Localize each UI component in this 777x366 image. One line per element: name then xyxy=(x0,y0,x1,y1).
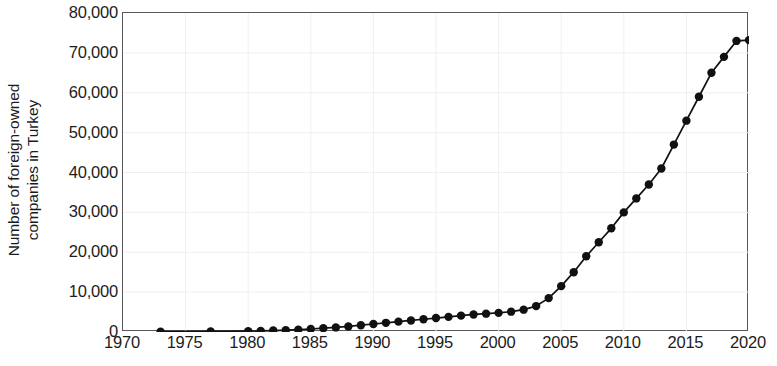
y-axis-label-line1: Number of foreign-owned xyxy=(4,84,23,257)
data-point-marker xyxy=(369,320,377,328)
plot-area xyxy=(122,12,748,331)
data-point-marker xyxy=(469,310,477,318)
data-point-marker xyxy=(570,268,578,276)
data-point-marker xyxy=(244,327,252,332)
data-point-marker xyxy=(206,327,214,332)
data-point-marker xyxy=(257,327,265,332)
x-tick-label: 2000 xyxy=(480,333,516,352)
data-point-marker xyxy=(720,53,728,61)
data-point-marker xyxy=(357,321,365,329)
data-point-marker xyxy=(732,37,740,45)
x-tick-label: 1980 xyxy=(229,333,265,352)
data-point-marker xyxy=(632,194,640,202)
data-point-marker xyxy=(532,302,540,310)
data-point-marker xyxy=(344,322,352,330)
x-tick-label: 2010 xyxy=(605,333,641,352)
x-tick-label: 2020 xyxy=(730,333,766,352)
data-point-marker xyxy=(582,252,590,260)
x-tick-label: 1970 xyxy=(104,333,140,352)
chart-canvas xyxy=(123,13,749,332)
data-point-marker xyxy=(494,309,502,317)
y-tick-label: 10,000 xyxy=(69,282,118,301)
data-point-marker xyxy=(407,316,415,324)
data-point-marker xyxy=(432,314,440,322)
data-point-marker xyxy=(319,324,327,332)
y-tick-label: 70,000 xyxy=(69,42,118,61)
data-point-marker xyxy=(482,309,490,317)
y-tick-label: 80,000 xyxy=(69,3,118,22)
data-point-marker xyxy=(544,294,552,302)
gridlines xyxy=(123,13,749,332)
y-tick-label: 20,000 xyxy=(69,242,118,261)
x-tick-label: 1990 xyxy=(354,333,390,352)
y-tick-label: 30,000 xyxy=(69,202,118,221)
data-point-marker xyxy=(457,311,465,319)
data-point-marker xyxy=(707,69,715,77)
x-tick-label: 1975 xyxy=(167,333,203,352)
data-point-marker xyxy=(645,180,653,188)
data-point-marker xyxy=(657,164,665,172)
data-point-marker xyxy=(282,326,290,332)
series-line xyxy=(161,40,749,331)
data-point-marker xyxy=(519,305,527,313)
x-tick-label: 1985 xyxy=(292,333,328,352)
data-point-marker xyxy=(307,325,315,332)
y-tick-label: 50,000 xyxy=(69,122,118,141)
data-point-marker xyxy=(156,327,164,332)
data-point-marker xyxy=(670,140,678,148)
data-point-marker xyxy=(419,315,427,323)
data-point-marker xyxy=(444,313,452,321)
data-point-marker xyxy=(620,208,628,216)
x-tick-label: 2015 xyxy=(667,333,703,352)
data-series-line xyxy=(161,40,749,331)
y-tick-label: 60,000 xyxy=(69,82,118,101)
data-point-marker xyxy=(382,319,390,327)
data-point-marker xyxy=(394,317,402,325)
y-axis-tick-labels: 010,00020,00030,00040,00050,00060,00070,… xyxy=(40,0,118,366)
chart-figure: Number of foreign-owned companies in Tur… xyxy=(0,0,777,366)
data-point-marker xyxy=(269,326,277,332)
x-tick-label: 2005 xyxy=(542,333,578,352)
data-point-markers xyxy=(156,36,749,332)
data-point-marker xyxy=(695,93,703,101)
data-point-marker xyxy=(332,323,340,331)
data-point-marker xyxy=(682,116,690,124)
x-axis-tick-labels: 1970197519801985199019952000200520102015… xyxy=(0,333,777,366)
data-point-marker xyxy=(294,325,302,332)
data-point-marker xyxy=(595,238,603,246)
data-point-marker xyxy=(507,307,515,315)
data-point-marker xyxy=(607,224,615,232)
x-tick-label: 1995 xyxy=(417,333,453,352)
data-point-marker xyxy=(557,282,565,290)
data-point-marker xyxy=(745,36,749,44)
y-tick-label: 40,000 xyxy=(69,162,118,181)
